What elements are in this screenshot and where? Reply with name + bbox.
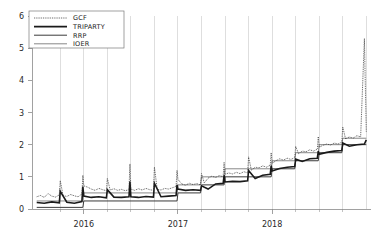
chart-legend: GCFTRIPARTYRRPIOER (29, 11, 124, 48)
x-tick-label: 2017 (168, 220, 188, 229)
y-tick-label: 3 (19, 109, 24, 118)
y-tick-label: 1 (19, 173, 24, 182)
y-tick-label: 5 (19, 44, 24, 53)
legend-label-ioer: IOER (73, 40, 90, 48)
y-axis-tick-labels: 0123456 (19, 12, 24, 214)
legend-label-gcf: GCF (73, 14, 87, 22)
x-tick-label: 2016 (74, 220, 94, 229)
legend-label-rrp: RRP (73, 32, 87, 40)
y-tick-label: 2 (19, 141, 24, 150)
y-tick-label: 4 (19, 76, 24, 85)
y-tick-label: 6 (19, 12, 24, 21)
y-tick-label: 0 (19, 205, 24, 214)
chart-container: 0123456 201620172018 GCFTRIPARTYRRPIOER (0, 0, 380, 244)
x-tick-label: 2018 (262, 220, 282, 229)
legend-label-triparty: TRIPARTY (72, 23, 105, 31)
line-chart: 0123456 201620172018 GCFTRIPARTYRRPIOER (0, 0, 380, 244)
x-axis-tick-labels: 201620172018 (74, 220, 283, 229)
